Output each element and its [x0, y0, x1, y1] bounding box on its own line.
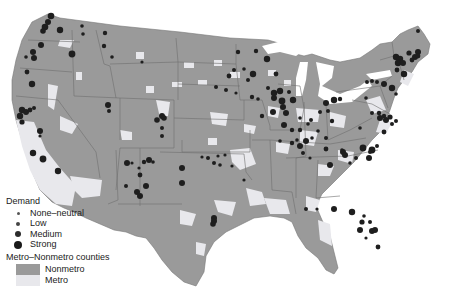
nonmetro-swatch-icon — [16, 264, 40, 275]
small-dot-icon — [17, 212, 20, 215]
legend-item-nonmetro: Nonmetro — [16, 264, 110, 275]
legend-label: Metro — [45, 275, 68, 286]
strong-dot-icon — [14, 241, 22, 249]
legend-item-none-neutral: None–neutral — [6, 208, 110, 219]
metro-swatch-icon — [16, 275, 40, 286]
county-legend-title: Metro–Nonmetro counties — [6, 252, 110, 263]
low-dot-icon — [16, 222, 21, 227]
medium-dot-icon — [15, 231, 21, 237]
legend-item-metro: Metro — [16, 275, 110, 286]
legend-item-medium: Medium — [6, 229, 110, 240]
legend-item-low: Low — [6, 219, 110, 230]
legend-label: Medium — [30, 229, 62, 240]
legend-label: Nonmetro — [45, 264, 85, 275]
legend-label: Strong — [30, 239, 57, 250]
legend-item-strong: Strong — [6, 240, 110, 251]
legend-label: Low — [30, 218, 47, 229]
legend-label: None–neutral — [30, 208, 84, 219]
map-legend: Demand None–neutral Low Medium Strong Me… — [6, 196, 110, 286]
demand-legend-title: Demand — [6, 196, 110, 207]
